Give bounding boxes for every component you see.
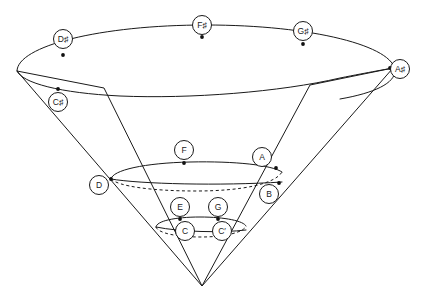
dot-b [277, 181, 281, 185]
note-node-d[interactable]: D [90, 176, 109, 195]
note-label-d: D [96, 180, 102, 190]
diagram-canvas: D♯ F♯ G♯ A♯ C♯ F [0, 0, 424, 294]
middle-ring-curve [111, 162, 282, 191]
inner-ring-curve [156, 217, 246, 237]
middle-ring-chord [111, 179, 282, 184]
cone-fold-lines [17, 68, 393, 286]
note-label-cprime: C′ [218, 226, 226, 236]
note-label-b: B [266, 189, 272, 199]
dot-d [109, 177, 113, 181]
dot-gsharp [301, 42, 305, 46]
note-node-a[interactable]: A [253, 148, 272, 167]
dot-dsharp [61, 53, 65, 57]
dot-fsharp [200, 35, 204, 39]
note-node-f[interactable]: F [175, 141, 194, 160]
note-label-csharp: C♯ [53, 97, 64, 107]
note-label-a: A [259, 152, 265, 162]
dot-csharp [56, 87, 60, 91]
note-label-f: F [181, 145, 186, 155]
note-label-gsharp: G♯ [298, 26, 310, 36]
note-node-b[interactable]: B [260, 185, 279, 204]
note-label-asharp: A♯ [395, 64, 406, 74]
note-label-g: G [215, 202, 222, 212]
dot-a [274, 166, 278, 170]
inner-ring-front [156, 217, 246, 227]
note-label-fsharp: F♯ [197, 20, 207, 30]
note-node-csharp[interactable]: C♯ [49, 93, 68, 112]
outer-ring-curve [17, 25, 395, 99]
dot-f [182, 161, 186, 165]
note-node-fsharp[interactable]: F♯ [193, 16, 212, 35]
note-node-dsharp[interactable]: D♯ [54, 30, 73, 49]
note-label-e: E [177, 202, 183, 212]
note-node-e[interactable]: E [171, 198, 190, 217]
cone-spiral-svg: D♯ F♯ G♯ A♯ C♯ F [0, 0, 424, 294]
dot-e [178, 217, 182, 221]
note-label-c: C [182, 226, 188, 236]
note-node-g[interactable]: G [209, 198, 228, 217]
note-label-dsharp: D♯ [58, 34, 69, 44]
dot-g [216, 217, 220, 221]
cone-rays-outer [17, 68, 393, 286]
ray-right-outer [202, 68, 393, 286]
note-nodes: D♯ F♯ G♯ A♯ C♯ F [49, 16, 410, 241]
note-node-asharp[interactable]: A♯ [391, 60, 410, 79]
note-node-gsharp[interactable]: G♯ [294, 22, 313, 41]
note-node-cprime[interactable]: C′ [213, 222, 232, 241]
note-node-c[interactable]: C [176, 222, 195, 241]
